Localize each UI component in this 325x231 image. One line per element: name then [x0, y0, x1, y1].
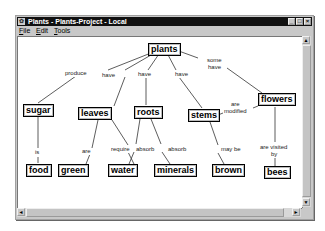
link-label-by[interactable]: by [271, 151, 277, 158]
node-food[interactable]: food [26, 164, 52, 177]
link-label-may-be[interactable]: may be [221, 146, 241, 153]
scroll-down-button[interactable]: ▼ [302, 198, 310, 206]
node-plants[interactable]: plants [148, 43, 181, 56]
link-label-are-visited[interactable]: are visited [260, 144, 287, 151]
link-label-some[interactable]: some [207, 57, 222, 64]
node-bees[interactable]: bees [264, 166, 291, 179]
horizontal-scrollbar[interactable]: ◄ ► [17, 208, 301, 217]
concept-links [18, 37, 302, 208]
link-label-have-roots[interactable]: have [138, 71, 151, 78]
menu-tools-rest: ools [58, 27, 71, 34]
link-label-produce[interactable]: produce [65, 70, 87, 77]
close-button[interactable]: × [304, 18, 311, 25]
menu-bar: File Edit Tools [17, 27, 312, 35]
horizontal-scroll-thumb[interactable] [26, 208, 284, 217]
link-label-require[interactable]: require [111, 146, 130, 153]
node-leaves[interactable]: leaves [78, 107, 112, 120]
app-window: ✿ Plants - Plants-Project - Local _ □ × … [15, 15, 314, 220]
menu-file[interactable]: File [19, 27, 30, 35]
app-icon: ✿ [18, 18, 25, 25]
vertical-scrollbar[interactable]: ▲ ▼ [302, 36, 311, 207]
link-label-have-stems[interactable]: have [175, 71, 188, 78]
minimize-button[interactable]: _ [288, 18, 295, 25]
vertical-scroll-thumb[interactable] [302, 45, 311, 197]
node-minerals[interactable]: minerals [154, 164, 197, 177]
node-roots[interactable]: roots [134, 106, 163, 119]
node-flowers[interactable]: flowers [258, 93, 296, 106]
menu-edit-rest: dit [41, 27, 48, 34]
node-water[interactable]: water [108, 164, 138, 177]
node-sugar[interactable]: sugar [23, 104, 54, 117]
link-label-are-modified-1[interactable]: are [231, 101, 240, 108]
title-bar[interactable]: ✿ Plants - Plants-Project - Local _ □ × [17, 17, 312, 26]
node-green[interactable]: green [58, 164, 89, 177]
node-brown[interactable]: brown [212, 164, 245, 177]
scroll-left-button[interactable]: ◄ [17, 208, 25, 216]
link-label-have-leaves[interactable]: have [102, 72, 115, 79]
link-label-is[interactable]: is [35, 149, 39, 156]
link-label-absorb-water[interactable]: absorb [136, 146, 154, 153]
window-title: Plants - Plants-Project - Local [28, 17, 127, 26]
menu-tools[interactable]: Tools [54, 27, 70, 35]
link-label-are[interactable]: are [82, 148, 91, 155]
maximize-button[interactable]: □ [296, 18, 303, 25]
link-label-have-flowers[interactable]: have [208, 64, 221, 71]
menu-file-rest: ile [23, 27, 30, 34]
link-label-are-modified-2[interactable]: modified [224, 108, 247, 115]
node-stems[interactable]: stems [188, 109, 220, 122]
menu-edit[interactable]: Edit [36, 27, 48, 35]
scrollbar-corner [302, 208, 311, 217]
scroll-up-button[interactable]: ▲ [302, 36, 310, 44]
link-label-absorb-minerals[interactable]: absorb [168, 146, 186, 153]
concept-map-canvas[interactable]: plants produce have have have some have … [17, 36, 303, 209]
scroll-right-button[interactable]: ► [292, 208, 300, 216]
